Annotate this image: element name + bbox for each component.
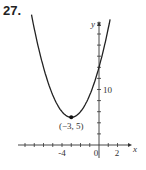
x-tick-label-2: 2	[115, 148, 120, 158]
y-axis-label: y	[90, 19, 95, 29]
x-axis-label: x	[132, 144, 137, 154]
x-arrow-icon	[128, 143, 132, 147]
x-tick-label-0: 0	[94, 148, 99, 158]
vertex-label: (−3, 5)	[59, 121, 84, 131]
y-tick-label-10: 10	[103, 85, 113, 95]
y-arrow-icon	[97, 21, 101, 26]
vertex-point	[69, 115, 73, 119]
parabola-curve	[32, 15, 111, 118]
x-tick-label-neg4: -4	[58, 148, 66, 158]
parabola-graph: (−3, 5) x y -4 0 2 10	[0, 0, 146, 170]
